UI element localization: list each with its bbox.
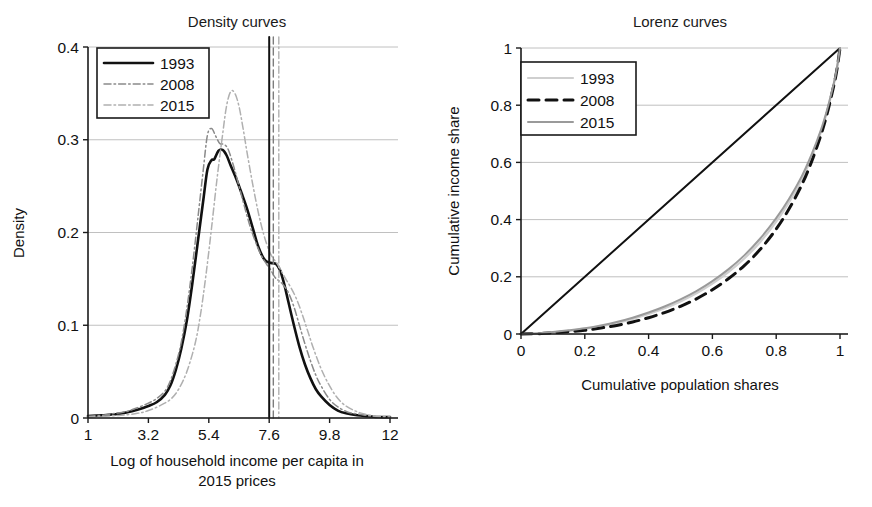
x-tick-label: 0 — [517, 342, 526, 359]
density-y-axis-label: Density — [10, 207, 27, 258]
x-tick-label: 1 — [836, 342, 845, 359]
density-x-axis-label-line1: Log of household income per capita in — [110, 452, 364, 469]
figure-svg: Density curves 13.25.47.69.812 00.10.20.… — [0, 0, 872, 507]
y-tick-label: 0.2 — [57, 224, 79, 241]
y-tick-label: 1 — [503, 40, 512, 57]
density-x-axis-label-line2: 2015 prices — [198, 472, 276, 489]
lorenz-x-axis-label: Cumulative population shares — [581, 376, 779, 393]
lorenz-legend[interactable]: 1993 2008 2015 — [521, 62, 636, 135]
y-tick-label: 0 — [70, 410, 79, 427]
x-tick-label: 5.4 — [198, 426, 220, 443]
lorenz-legend-label-2015: 2015 — [580, 114, 614, 131]
x-tick-label: 0.8 — [765, 342, 787, 359]
y-tick-label: 0.2 — [490, 268, 512, 285]
x-tick-label: 0.2 — [574, 342, 596, 359]
y-tick-label: 0.8 — [490, 97, 512, 114]
lorenz-legend-label-2008: 2008 — [580, 92, 614, 109]
density-legend-label-1993: 1993 — [160, 55, 194, 72]
x-tick-label: 0.6 — [702, 342, 724, 359]
x-tick-label: 1 — [84, 426, 93, 443]
lorenz-chart-title: Lorenz curves — [633, 13, 727, 30]
density-legend-label-2015: 2015 — [160, 97, 194, 114]
y-tick-label: 0.4 — [490, 211, 512, 228]
y-tick-label: 0.1 — [57, 317, 79, 334]
x-tick-label: 12 — [381, 426, 398, 443]
x-tick-label: 7.6 — [258, 426, 280, 443]
density-legend-label-2008: 2008 — [160, 76, 194, 93]
figure-container: Density curves 13.25.47.69.812 00.10.20.… — [0, 0, 872, 507]
density-chart-title: Density curves — [188, 13, 286, 30]
y-tick-label: 0.6 — [490, 154, 512, 171]
x-tick-label: 0.4 — [638, 342, 660, 359]
y-tick-label: 0.3 — [57, 131, 79, 148]
y-tick-label: 0 — [503, 326, 512, 343]
x-tick-label: 9.8 — [319, 426, 341, 443]
y-tick-label: 0.4 — [57, 39, 79, 56]
x-tick-label: 3.2 — [138, 426, 160, 443]
lorenz-y-axis-label: Cumulative income share — [445, 106, 462, 275]
lorenz-legend-label-1993: 1993 — [580, 70, 614, 87]
density-legend[interactable]: 1993 2008 2015 — [97, 48, 209, 118]
